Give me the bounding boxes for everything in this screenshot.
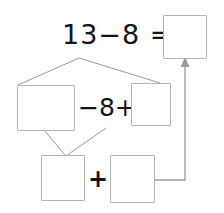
answer-box-bottom-right[interactable] <box>110 155 155 203</box>
answer-box-bottom-left[interactable] <box>41 155 85 201</box>
combine-connector-icon <box>44 128 106 156</box>
top-expression: 13−8 = <box>62 21 173 48</box>
answer-box-middle-right[interactable] <box>131 83 171 126</box>
bottom-plus-operator: + <box>88 167 108 191</box>
answer-box-middle-left[interactable] <box>17 85 75 131</box>
answer-box-result[interactable] <box>163 15 207 59</box>
split-connector-icon <box>18 58 160 85</box>
middle-expression: −8+ <box>78 95 136 120</box>
math-worksheet-canvas: 13−8 = −8+ + <box>0 0 224 213</box>
